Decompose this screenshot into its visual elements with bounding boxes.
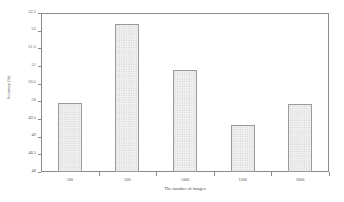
- y-axis-tick-mark: [38, 66, 41, 67]
- x-axis-title: The number of images: [41, 186, 329, 191]
- y-axis-tick-label: 48.5: [28, 150, 36, 155]
- x-axis-tick-label: 1500: [238, 177, 246, 182]
- x-axis: The number of images 100500100015002000: [41, 172, 329, 202]
- y-axis-tick-mark: [38, 84, 41, 85]
- y-axis-tick-label: 51: [32, 62, 36, 67]
- bar: [288, 104, 312, 172]
- y-axis-tick-label: 50: [32, 97, 36, 102]
- y-axis-tick-label: 49: [32, 132, 36, 137]
- y-axis-tick-mark: [38, 48, 41, 49]
- bar: [58, 103, 82, 172]
- y-axis-tick-mark: [38, 31, 41, 32]
- x-axis-tick-mark: [99, 172, 100, 176]
- bar: [115, 24, 139, 172]
- y-axis-tick-mark: [38, 13, 41, 14]
- y-axis-tick-label: 52: [32, 26, 36, 31]
- y-axis-tick-label: 52.5: [28, 9, 36, 14]
- bar-chart-figure: Accuracy (%) 4848.54949.55050.55151.5525…: [0, 0, 344, 202]
- y-axis-tick-label: 51.5: [28, 44, 36, 49]
- y-axis-tick-mark: [38, 154, 41, 155]
- x-axis-tick-mark: [271, 172, 272, 176]
- x-axis-tick-mark: [156, 172, 157, 176]
- x-axis-tick-label: 1000: [181, 177, 189, 182]
- y-axis-tick-label: 50.5: [28, 79, 36, 84]
- bar: [231, 125, 255, 172]
- x-axis-tick-label: 100: [67, 177, 73, 182]
- y-axis-tick-mark: [38, 137, 41, 138]
- y-axis-tick-mark: [38, 101, 41, 102]
- y-axis-tick-mark: [38, 119, 41, 120]
- x-axis-tick-mark: [329, 172, 330, 176]
- y-axis-tick-label: 48: [32, 168, 36, 173]
- x-axis-tick-label: 2000: [296, 177, 304, 182]
- bar: [173, 70, 197, 172]
- y-axis-title: Accuracy (%): [6, 58, 11, 118]
- y-axis-tick-label: 49.5: [28, 115, 36, 120]
- x-axis-tick-label: 500: [124, 177, 130, 182]
- x-axis-tick-mark: [214, 172, 215, 176]
